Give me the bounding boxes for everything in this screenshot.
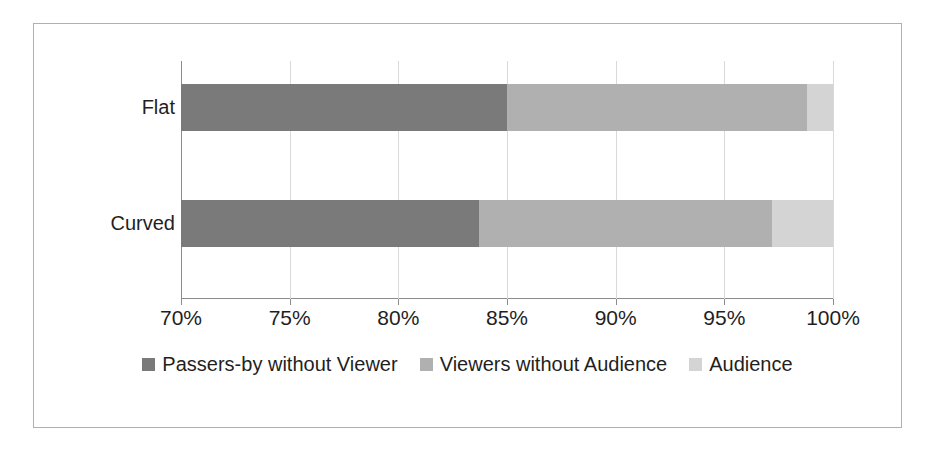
plot-area — [181, 61, 833, 299]
x-tick-label-85%: 85% — [486, 306, 528, 330]
bar-segment-curved-viewers — [479, 200, 772, 247]
bar-segment-flat-viewers — [507, 84, 807, 131]
x-tick-label-95%: 95% — [703, 306, 745, 330]
chart-legend: Passers-by without Viewer Viewers withou… — [34, 354, 901, 374]
legend-swatch-passers-by-icon — [142, 358, 155, 371]
x-tick-label-70%: 70% — [160, 306, 202, 330]
legend-item-passers-by: Passers-by without Viewer — [142, 354, 397, 374]
bar-row-curved — [181, 200, 833, 247]
bar-segment-curved-passers-by — [181, 200, 479, 247]
tickmark-100% — [833, 299, 834, 305]
chart-frame: Flat Curved 70%75%80%85%90%95%100% Passe… — [33, 23, 902, 428]
x-tick-label-80%: 80% — [377, 306, 419, 330]
tickmark-85% — [507, 299, 508, 305]
bar-segment-flat-passers-by — [181, 84, 507, 131]
category-label-flat-text: Flat — [34, 84, 197, 131]
legend-label-passers-by: Passers-by without Viewer — [162, 354, 397, 374]
tickmark-90% — [616, 299, 617, 305]
tickmark-75% — [290, 299, 291, 305]
category-label-curved: Curved — [34, 200, 197, 247]
bar-segment-flat-audience — [807, 84, 833, 131]
x-axis-tick-labels: 70%75%80%85%90%95%100% — [181, 306, 833, 336]
bar-segment-curved-audience — [772, 200, 833, 247]
category-label-curved-text: Curved — [34, 200, 197, 247]
x-tick-label-75%: 75% — [269, 306, 311, 330]
legend-label-viewers: Viewers without Audience — [440, 354, 668, 374]
tickmark-95% — [724, 299, 725, 305]
bar-row-flat — [181, 84, 833, 131]
gridline-100% — [833, 61, 834, 299]
tickmark-80% — [398, 299, 399, 305]
legend-swatch-audience-icon — [689, 358, 702, 371]
legend-item-audience: Audience — [689, 354, 792, 374]
x-tick-label-100%: 100% — [806, 306, 860, 330]
legend-swatch-viewers-icon — [420, 358, 433, 371]
legend-label-audience: Audience — [709, 354, 792, 374]
legend-item-viewers: Viewers without Audience — [420, 354, 668, 374]
category-label-flat: Flat — [34, 84, 197, 131]
x-tick-label-90%: 90% — [595, 306, 637, 330]
tickmark-70% — [181, 299, 182, 305]
